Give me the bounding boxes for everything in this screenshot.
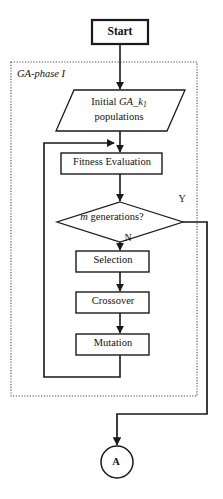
- mutation-node-shape[interactable]: [76, 334, 149, 355]
- flowchart-figure: Start GA-phase I Initial GA_k1 populatio…: [0, 0, 223, 499]
- fitness-node-shape[interactable]: [61, 153, 162, 174]
- crossover-node-shape[interactable]: [76, 292, 149, 313]
- start-node-shape[interactable]: [92, 20, 148, 44]
- initial-populations-shape[interactable]: [56, 90, 185, 131]
- figure-frame: [1, 1, 222, 498]
- selection-node-shape[interactable]: [76, 251, 149, 272]
- flowchart-canvas: [0, 0, 223, 499]
- connector-a-shape[interactable]: [101, 446, 133, 478]
